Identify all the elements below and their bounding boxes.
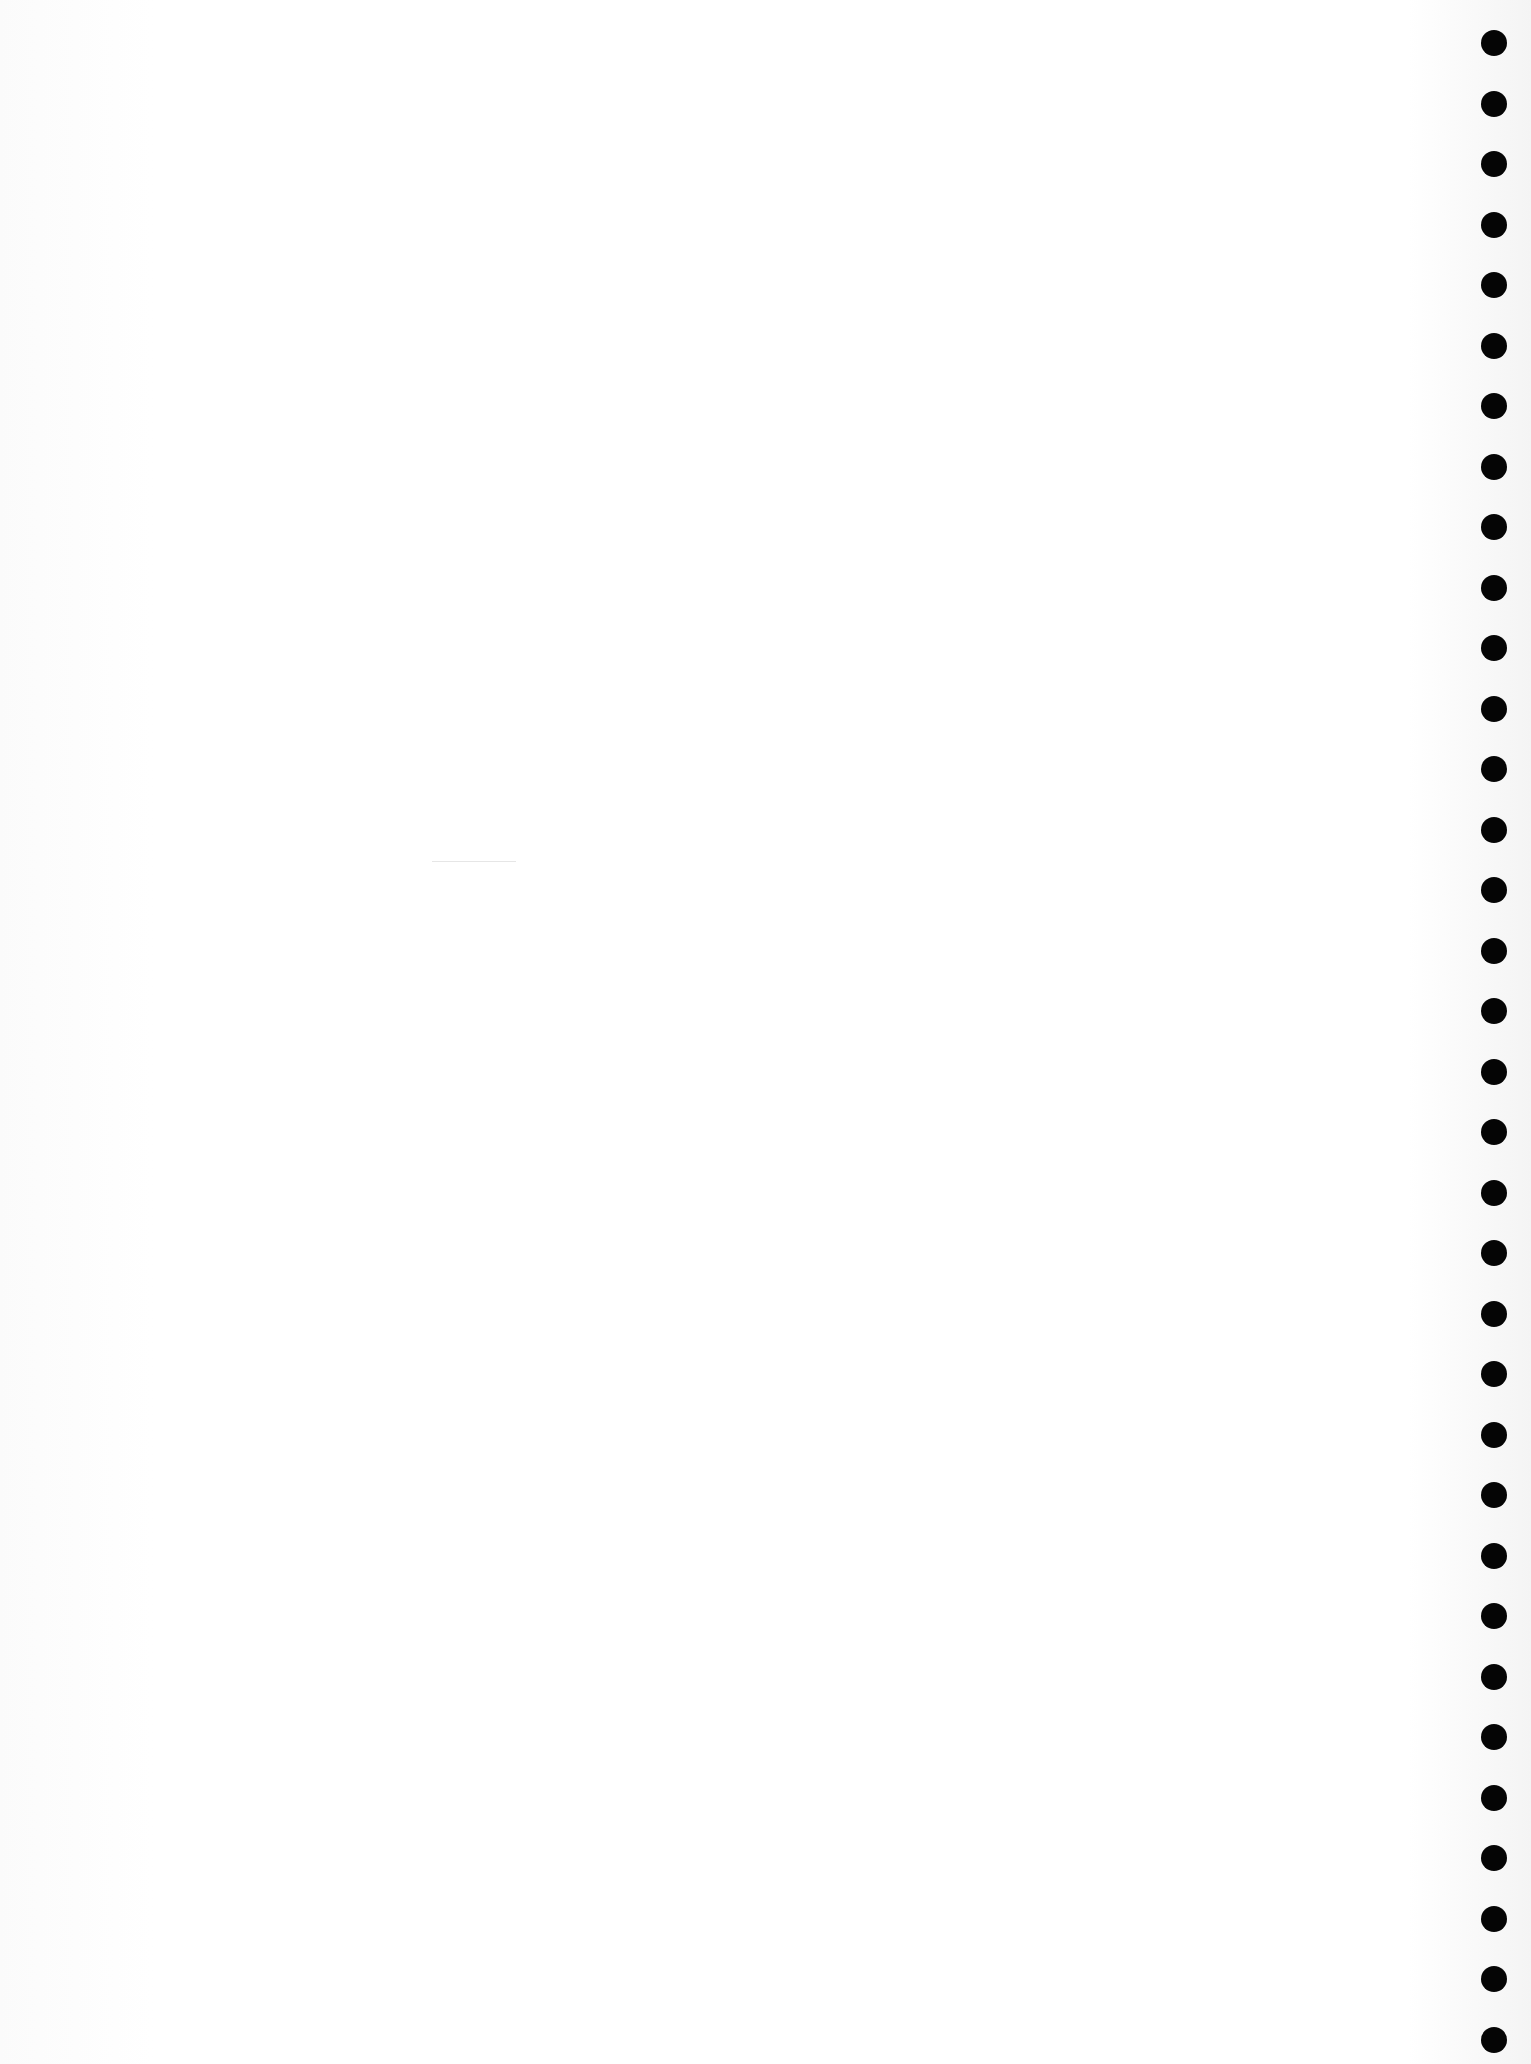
punch-hole-icon	[1481, 696, 1507, 722]
punch-hole-icon	[1481, 1664, 1507, 1690]
punch-hole-icon	[1481, 1603, 1507, 1629]
punch-hole-icon	[1481, 1482, 1507, 1508]
punch-hole-icon	[1481, 998, 1507, 1024]
punch-hole-icon	[1481, 575, 1507, 601]
punch-hole-icon	[1481, 756, 1507, 782]
punch-hole-icon	[1481, 1785, 1507, 1811]
punch-hole-icon	[1481, 151, 1507, 177]
punch-hole-icon	[1481, 1059, 1507, 1085]
punch-hole-icon	[1481, 1180, 1507, 1206]
punch-hole-icon	[1481, 333, 1507, 359]
punch-hole-icon	[1481, 1361, 1507, 1387]
punch-hole-icon	[1481, 635, 1507, 661]
punch-hole-icon	[1481, 1845, 1507, 1871]
punch-hole-icon	[1481, 1543, 1507, 1569]
punch-hole-icon	[1481, 30, 1507, 56]
punch-hole-icon	[1481, 454, 1507, 480]
punch-hole-icon	[1481, 1301, 1507, 1327]
punch-hole-icon	[1481, 1906, 1507, 1932]
punch-hole-icon	[1481, 1240, 1507, 1266]
punch-hole-icon	[1481, 1724, 1507, 1750]
scan-artifact-line	[432, 861, 516, 862]
punch-hole-icon	[1481, 1119, 1507, 1145]
punch-hole-icon	[1481, 212, 1507, 238]
punch-hole-icon	[1481, 817, 1507, 843]
punch-hole-icon	[1481, 1966, 1507, 1992]
punch-hole-column	[1481, 0, 1509, 2064]
punch-hole-icon	[1481, 1422, 1507, 1448]
punch-hole-icon	[1481, 2027, 1507, 2053]
punch-hole-icon	[1481, 514, 1507, 540]
punch-hole-icon	[1481, 91, 1507, 117]
punch-hole-icon	[1481, 393, 1507, 419]
blank-page	[0, 0, 1531, 2064]
punch-hole-icon	[1481, 938, 1507, 964]
punch-hole-icon	[1481, 877, 1507, 903]
punch-hole-icon	[1481, 272, 1507, 298]
